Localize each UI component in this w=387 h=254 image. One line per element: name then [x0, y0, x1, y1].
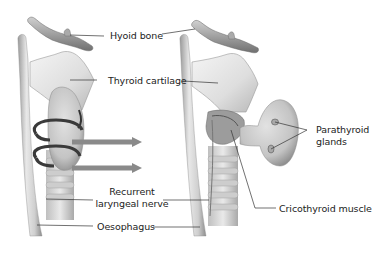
label-recurrent-line2: laryngeal nerve — [94, 198, 170, 209]
thyroid-cartilage-right — [192, 53, 258, 112]
label-parathyroid-line1: Parathyroid — [316, 124, 369, 135]
label-hyoid-bone: Hyoid bone — [110, 30, 163, 41]
label-parathyroid-line2: glands — [316, 136, 347, 147]
thyroid-lobe-rotated — [240, 100, 298, 166]
hyoid-bone-right — [192, 20, 259, 52]
label-cricothyroid-muscle: Cricothyroid muscle — [279, 203, 372, 214]
label-oesophagus: Oesophagus — [97, 221, 155, 232]
hyoid-bone-left — [28, 17, 93, 51]
cricothyroid-muscle — [206, 110, 244, 144]
label-recurrent-line1: Recurrent — [104, 186, 160, 197]
label-thyroid-cartilage: Thyroid cartilage — [108, 75, 187, 86]
